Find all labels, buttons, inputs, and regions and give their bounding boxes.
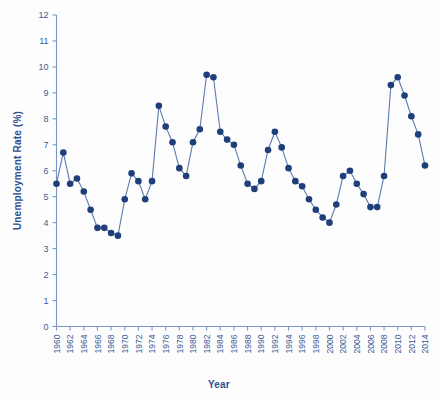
svg-text:2002: 2002: [338, 334, 348, 353]
data-point: [108, 230, 115, 237]
svg-text:1970: 1970: [120, 334, 130, 353]
svg-text:2000: 2000: [325, 334, 335, 353]
data-point: [94, 225, 101, 232]
svg-text:1980: 1980: [188, 334, 198, 353]
svg-text:1996: 1996: [297, 334, 307, 353]
data-point: [149, 178, 156, 185]
svg-text:2010: 2010: [393, 334, 403, 353]
data-point: [415, 131, 422, 138]
data-point: [326, 219, 333, 226]
data-point: [142, 196, 149, 203]
svg-text:12: 12: [38, 10, 48, 20]
svg-text:1972: 1972: [134, 334, 144, 353]
data-point: [162, 123, 169, 130]
data-point: [87, 206, 94, 213]
data-point: [135, 178, 142, 185]
svg-text:1982: 1982: [202, 334, 212, 353]
svg-text:1: 1: [43, 296, 48, 306]
data-point: [422, 162, 429, 169]
data-point: [67, 180, 74, 187]
svg-text:1986: 1986: [229, 334, 239, 353]
svg-text:1990: 1990: [256, 334, 266, 353]
svg-text:1962: 1962: [65, 334, 75, 353]
data-point: [394, 74, 401, 81]
svg-text:10: 10: [38, 62, 48, 72]
svg-text:7: 7: [43, 140, 48, 150]
data-point: [244, 180, 251, 187]
data-point: [381, 173, 388, 180]
svg-text:8: 8: [43, 114, 48, 124]
data-point: [231, 141, 238, 148]
svg-text:3: 3: [43, 244, 48, 254]
svg-text:2: 2: [43, 270, 48, 280]
svg-text:1998: 1998: [311, 334, 321, 353]
data-series-line: [57, 75, 426, 236]
y-axis-title: Unemployment Rate (%): [12, 91, 23, 251]
x-axis-title: Year: [0, 379, 438, 390]
svg-text:1984: 1984: [215, 334, 225, 353]
data-point: [408, 113, 415, 120]
svg-text:2012: 2012: [407, 334, 417, 353]
svg-text:1988: 1988: [243, 334, 253, 353]
data-point: [333, 201, 340, 208]
data-point: [401, 92, 408, 99]
data-point: [237, 162, 244, 169]
data-point: [60, 149, 67, 156]
svg-text:1968: 1968: [106, 334, 116, 353]
svg-text:1966: 1966: [93, 334, 103, 353]
data-point: [313, 206, 320, 213]
svg-text:1994: 1994: [284, 334, 294, 353]
chart-plot-area: 0123456789101112 19601962196419661968197…: [0, 0, 438, 399]
data-point: [360, 191, 367, 198]
svg-text:0: 0: [43, 322, 48, 332]
data-point: [169, 139, 176, 146]
x-axis-ticks: 1960196219641966196819701972197419761978…: [52, 327, 431, 354]
data-point: [176, 165, 183, 172]
svg-text:1976: 1976: [161, 334, 171, 353]
data-point: [265, 147, 272, 154]
data-point: [217, 129, 224, 136]
svg-text:1960: 1960: [52, 334, 62, 353]
data-point: [121, 196, 128, 203]
svg-text:9: 9: [43, 88, 48, 98]
svg-text:11: 11: [39, 36, 48, 46]
data-point: [374, 204, 381, 211]
unemployment-rate-chart: 0123456789101112 19601962196419661968197…: [0, 0, 438, 399]
data-point: [81, 188, 88, 195]
data-point: [258, 178, 265, 185]
svg-text:1978: 1978: [175, 334, 185, 353]
svg-text:6: 6: [43, 166, 48, 176]
data-point: [367, 204, 374, 211]
data-point: [278, 144, 285, 151]
svg-text:1992: 1992: [270, 334, 280, 353]
svg-text:5: 5: [43, 192, 48, 202]
data-point: [156, 103, 163, 110]
y-axis-ticks: 0123456789101112: [38, 10, 56, 332]
data-point: [353, 180, 360, 187]
svg-text:1974: 1974: [147, 334, 157, 353]
data-point: [115, 232, 122, 239]
data-point: [388, 82, 395, 89]
data-point: [101, 225, 108, 232]
data-point-markers: [53, 71, 428, 239]
data-point: [285, 165, 292, 172]
svg-text:4: 4: [43, 218, 48, 228]
data-point: [306, 196, 313, 203]
data-point: [128, 170, 135, 177]
svg-text:1964: 1964: [79, 334, 89, 353]
data-point: [74, 175, 81, 182]
data-point: [347, 167, 354, 174]
data-point: [190, 139, 197, 146]
svg-text:2008: 2008: [379, 334, 389, 353]
data-point: [183, 173, 190, 180]
data-point: [197, 126, 204, 133]
data-point: [203, 71, 210, 78]
data-point: [251, 186, 258, 193]
data-point: [292, 178, 299, 185]
data-point: [340, 173, 347, 180]
svg-text:2004: 2004: [352, 334, 362, 353]
data-point: [53, 180, 60, 187]
svg-text:2006: 2006: [366, 334, 376, 353]
data-point: [224, 136, 231, 143]
svg-text:2014: 2014: [420, 334, 430, 353]
